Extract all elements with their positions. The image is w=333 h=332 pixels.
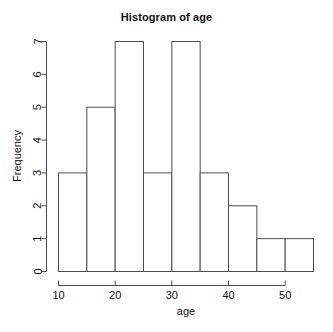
histogram-bar bbox=[257, 239, 285, 272]
histogram-bar bbox=[229, 206, 257, 272]
y-axis-tick-label: 7 bbox=[32, 38, 44, 44]
y-axis-group: 01234567 bbox=[32, 38, 47, 274]
x-axis-tick-label: 20 bbox=[109, 289, 121, 301]
x-axis-tick-label: 50 bbox=[279, 289, 291, 301]
x-axis-tick-label: 40 bbox=[222, 289, 234, 301]
histogram-plot-panel: Histogram of age 01234567 1020304050 Fre… bbox=[0, 0, 333, 332]
x-axis-tick-label: 10 bbox=[52, 289, 64, 301]
y-axis-tick-label: 6 bbox=[32, 71, 44, 77]
histogram-bar bbox=[87, 107, 115, 271]
histogram-bar bbox=[144, 173, 172, 272]
y-axis-tick-label: 2 bbox=[32, 203, 44, 209]
y-axis-tick-label: 3 bbox=[32, 170, 44, 176]
histogram-bar bbox=[172, 42, 200, 272]
y-axis-tick-label: 5 bbox=[32, 104, 44, 110]
y-axis-title: Frequency bbox=[11, 130, 23, 182]
histogram-bar bbox=[115, 42, 143, 272]
histogram-bar bbox=[285, 239, 313, 272]
y-axis-tick-label: 1 bbox=[32, 236, 44, 242]
y-axis-tick-label: 0 bbox=[32, 268, 44, 274]
y-axis-tick-label: 4 bbox=[32, 137, 44, 143]
x-axis-tick-label: 30 bbox=[166, 289, 178, 301]
x-axis-group: 1020304050 bbox=[52, 281, 291, 301]
histogram-svg-canvas: 01234567 1020304050 Frequency age bbox=[0, 0, 333, 332]
histogram-bar bbox=[200, 173, 228, 272]
histogram-bars-group bbox=[59, 42, 314, 272]
histogram-bar bbox=[59, 173, 87, 272]
x-axis-title: age bbox=[177, 305, 195, 317]
